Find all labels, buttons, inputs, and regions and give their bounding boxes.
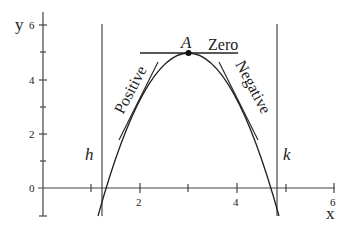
- label-h: h: [85, 145, 94, 164]
- y-tick-2: 2: [29, 128, 35, 140]
- label-k: k: [283, 145, 291, 164]
- y-axis-label: y: [15, 15, 24, 34]
- x-tick-4: 4: [233, 196, 239, 208]
- x-axis-label: x: [326, 204, 335, 223]
- x-axis: [38, 183, 335, 193]
- y-tick-6: 6: [29, 19, 35, 31]
- negative-label: Negative: [231, 57, 274, 116]
- x-tick-2: 2: [136, 196, 142, 208]
- zero-label: Zero: [208, 36, 238, 53]
- y-axis: [39, 12, 47, 216]
- point-a-label: A: [180, 33, 192, 52]
- y-tick-0: 0: [29, 182, 35, 194]
- y-tick-4: 4: [29, 74, 35, 86]
- tangent-slope-diagram: 6 4 2 0 2 4 6 y x h k A Zero Positive Ne…: [0, 0, 355, 229]
